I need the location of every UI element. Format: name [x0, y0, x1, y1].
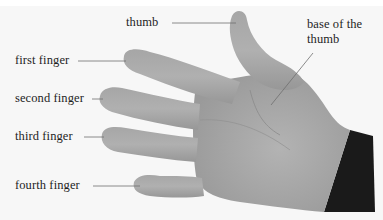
label-base-of-thumb-line1: base of the: [307, 17, 377, 32]
label-base-of-thumb: base of the thumb: [307, 17, 377, 47]
label-second-finger: second finger: [15, 91, 84, 106]
second-finger: [100, 87, 201, 130]
fourth-finger: [134, 175, 204, 198]
label-third-finger: third finger: [15, 129, 73, 144]
hand-diagram: thumb base of the thumb first finger sec…: [0, 0, 383, 220]
label-first-finger: first finger: [15, 53, 69, 68]
third-finger: [102, 127, 198, 162]
label-fourth-finger: fourth finger: [15, 178, 80, 193]
label-thumb: thumb: [126, 15, 158, 30]
label-base-of-thumb-line2: thumb: [307, 32, 377, 47]
